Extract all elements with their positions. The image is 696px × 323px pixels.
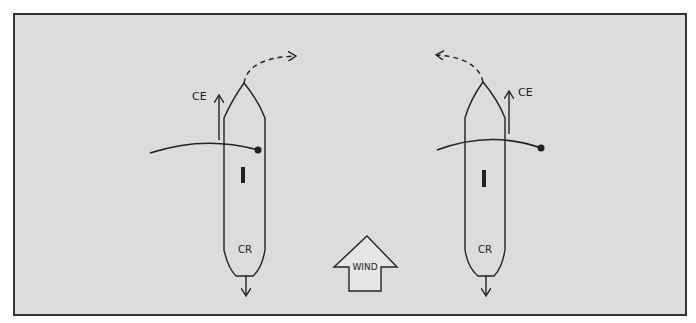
- right-rudder-mark: [482, 170, 486, 187]
- right-ce-label: CE: [518, 86, 533, 99]
- left-rudder-mark: [241, 167, 245, 183]
- right-sail-boom: [437, 139, 541, 150]
- right-turn-arrow-icon: [437, 55, 483, 82]
- left-turn-arrow-icon: [244, 56, 295, 83]
- left-mast-dot: [255, 147, 262, 154]
- left-boat: CE CR: [150, 56, 295, 295]
- left-ce-label: CE: [192, 90, 207, 103]
- wind-arrow: WIND: [334, 236, 397, 291]
- left-sail-boom: [150, 143, 258, 153]
- sailing-balance-diagram: CE CR CE CR WIND: [0, 0, 696, 323]
- right-mast-dot: [538, 145, 545, 152]
- left-cr-label: CR: [238, 244, 252, 255]
- right-boat: CE CR: [437, 55, 545, 295]
- wind-label: WIND: [352, 262, 377, 272]
- right-cr-label: CR: [478, 244, 492, 255]
